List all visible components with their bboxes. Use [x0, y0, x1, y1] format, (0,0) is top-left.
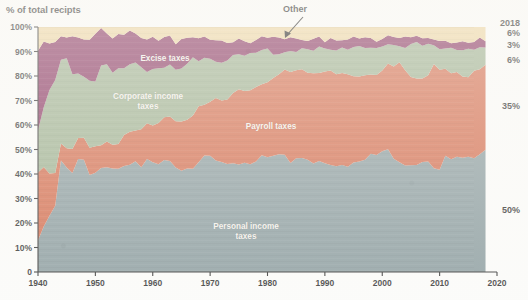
- end-value-other: 6%: [486, 28, 520, 38]
- chart-page: % of total recipts 010%20%30%40%50%60%70…: [0, 0, 528, 300]
- x-axis-tick-label: 1980: [248, 278, 288, 288]
- y-axis-tick-label: 40%: [2, 169, 32, 179]
- x-axis-tick-label: 1940: [18, 278, 58, 288]
- end-value-corporate-income-taxes: 6%: [486, 55, 520, 65]
- other-annotation-label: Other: [283, 4, 307, 14]
- series-label-excise-taxes: Excise taxes: [120, 54, 210, 64]
- y-axis-tick-label: 30%: [2, 194, 32, 204]
- x-axis-tick-label: 1950: [75, 278, 115, 288]
- series-label-personal-income-taxes: Personal incometaxes: [198, 222, 294, 242]
- stacked-area-plot: [0, 0, 528, 300]
- series-label-corporate-income-taxes: Corporate incometaxes: [100, 92, 196, 112]
- series-label-line2: taxes: [100, 102, 196, 112]
- y-axis-tick-label: 10%: [2, 243, 32, 253]
- y-axis-tick-label: 80%: [2, 71, 32, 81]
- x-axis-tick-label: 2010: [420, 278, 460, 288]
- end-year-label: 2018: [484, 18, 520, 28]
- series-label-payroll-taxes: Payroll taxes: [233, 122, 309, 132]
- end-value-excise-taxes: 3%: [486, 40, 520, 50]
- y-axis-tick-label: 60%: [2, 120, 32, 130]
- end-value-payroll-taxes: 35%: [486, 101, 520, 111]
- x-axis-tick-label: 1960: [133, 278, 173, 288]
- x-axis-tick-label: 1990: [305, 278, 345, 288]
- x-axis-tick-label: 1970: [190, 278, 230, 288]
- end-value-personal-income-taxes: 50%: [486, 205, 520, 215]
- y-axis-tick-label: 0: [2, 267, 32, 277]
- y-axis-tick-label: 50%: [2, 145, 32, 155]
- series-label-line2: taxes: [198, 232, 294, 242]
- y-axis-tick-label: 90%: [2, 47, 32, 57]
- y-axis-tick-label: 20%: [2, 218, 32, 228]
- x-axis-tick-label: 2000: [362, 278, 402, 288]
- x-axis-tick-label: 2020: [477, 278, 517, 288]
- y-axis-tick-label: 100%: [2, 22, 32, 32]
- y-axis-tick-label: 70%: [2, 96, 32, 106]
